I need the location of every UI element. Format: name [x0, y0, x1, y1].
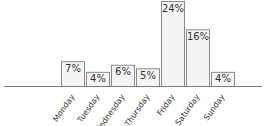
data-label-friday: 24% [162, 3, 184, 14]
data-label-thursday: 5% [140, 70, 156, 81]
data-label-monday: 7% [65, 63, 81, 74]
x-tick-labels-group: MondayTuesdayWednesdayThursdayFridaySatu… [51, 92, 227, 126]
data-label-wednesday: 6% [115, 66, 131, 77]
x-tick-label-thursday: Thursday [122, 92, 151, 126]
x-tick-label-sunday: Sunday [202, 92, 227, 122]
data-label-sunday: 4% [215, 73, 231, 84]
bar-chart: 7%4%6%5%24%16%4% MondayTuesdayWednesdayT… [0, 0, 264, 126]
x-tick-label-monday: Monday [51, 92, 77, 123]
data-label-tuesday: 4% [90, 73, 106, 84]
x-tick-label-saturday: Saturday [174, 92, 202, 126]
x-tick-label-friday: Friday [155, 92, 176, 117]
x-tick-label-tuesday: Tuesday [75, 92, 102, 125]
bar-friday [162, 2, 185, 87]
data-label-saturday: 16% [187, 31, 209, 42]
